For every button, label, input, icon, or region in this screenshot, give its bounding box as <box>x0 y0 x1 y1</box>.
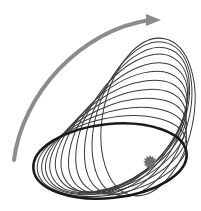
orbit-ellipse <box>46 41 201 211</box>
orbit-ellipse <box>39 49 201 211</box>
precessing-orbits <box>30 29 201 211</box>
diagram-canvas <box>0 0 201 211</box>
curved-arrow-icon <box>14 14 161 160</box>
precession-diagram: Apsidal precession of an orbit <box>0 0 201 211</box>
